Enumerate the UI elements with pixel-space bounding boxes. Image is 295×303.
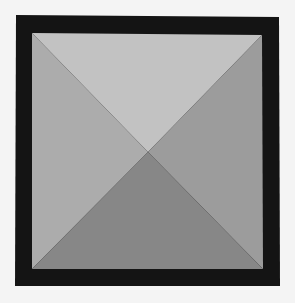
pyramid-photo xyxy=(0,0,295,303)
